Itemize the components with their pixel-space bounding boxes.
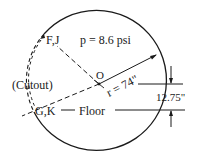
arrow-up-icon (169, 110, 173, 116)
label-radius: r = 74" (104, 72, 140, 100)
label-gk: G,K (35, 104, 56, 118)
radius-arrowhead-icon (150, 55, 157, 60)
arrow-down-icon (169, 78, 173, 84)
fuselage-diagram: F,J p = 8.6 psi O r = 74" (Cutout) G,K F… (0, 0, 197, 160)
label-center: O (96, 69, 104, 81)
center-tick (94, 80, 104, 88)
label-pressure: p = 8.6 psi (80, 33, 131, 47)
label-cutout: (Cutout) (12, 78, 53, 92)
label-floor-offset: 12.75" (156, 91, 185, 103)
label-fj: F,J (46, 33, 60, 47)
cutout-arrowhead-icon (40, 34, 45, 39)
label-floor: Floor (79, 104, 105, 118)
line-o-to-fj (57, 46, 99, 84)
cutout-arc (26, 34, 44, 112)
cutout-inner-arc (29, 40, 41, 107)
